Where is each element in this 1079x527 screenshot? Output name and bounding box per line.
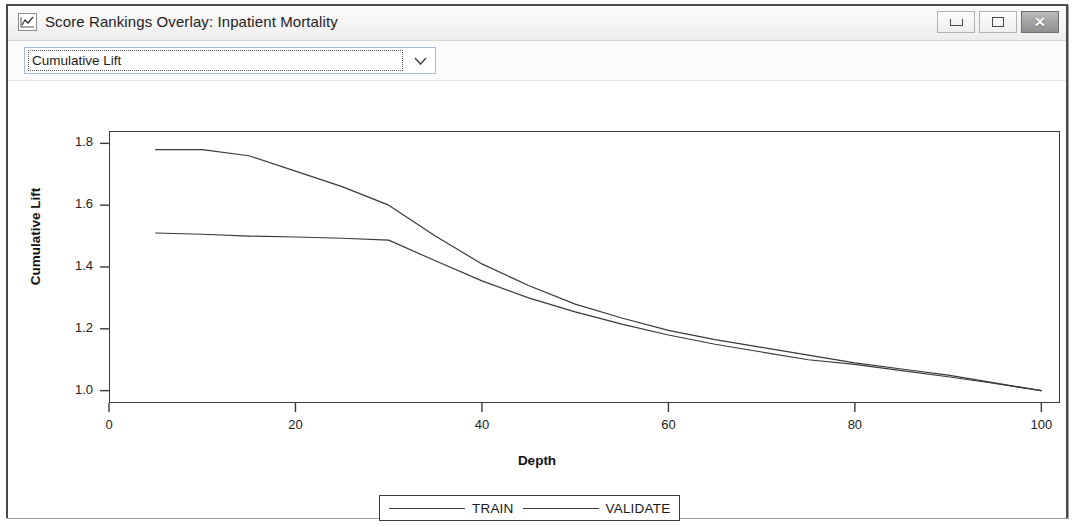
minimize-icon (950, 19, 963, 26)
close-icon: ✕ (1034, 15, 1046, 29)
legend-label-train: TRAIN (472, 501, 514, 516)
chart-panel: Cumulative Lift Depth 1.01.21.41.61.8 02… (8, 81, 1066, 518)
x-axis-label: Depth (8, 453, 1066, 468)
window-title: Score Rankings Overlay: Inpatient Mortal… (45, 13, 338, 30)
maximize-button[interactable] (979, 11, 1017, 33)
x-tick-label: 20 (271, 417, 319, 432)
chart-legend: TRAIN VALIDATE (379, 495, 680, 521)
maximize-icon (992, 17, 1004, 27)
close-button[interactable]: ✕ (1021, 11, 1059, 33)
title-bar: Score Rankings Overlay: Inpatient Mortal… (8, 6, 1066, 41)
y-axis-label: Cumulative Lift (28, 177, 43, 297)
plot-type-select[interactable]: Cumulative Lift (24, 47, 436, 74)
x-tick-label: 80 (831, 417, 879, 432)
plot-type-value-box: Cumulative Lift (28, 50, 403, 71)
toolbar: Cumulative Lift (8, 41, 1066, 81)
data-series (156, 150, 1042, 391)
line-chart-icon (18, 13, 37, 31)
x-tick-label: 40 (458, 417, 506, 432)
legend-item-train[interactable]: TRAIN (389, 501, 514, 516)
chevron-down-icon[interactable] (405, 56, 435, 66)
x-tick-label: 100 (1017, 417, 1065, 432)
plot-type-value: Cumulative Lift (32, 53, 121, 68)
y-tick-label: 1.2 (53, 320, 93, 335)
window-controls: ✕ (937, 11, 1059, 33)
y-tick-label: 1.4 (53, 258, 93, 273)
legend-swatch-train (389, 508, 465, 509)
chart-window: Score Rankings Overlay: Inpatient Mortal… (6, 4, 1068, 518)
minimize-button[interactable] (937, 11, 975, 33)
y-tick-label: 1.0 (53, 382, 93, 397)
legend-item-validate[interactable]: VALIDATE (523, 501, 671, 516)
x-tick-label: 0 (85, 417, 133, 432)
axis-ticks (100, 143, 1041, 412)
x-tick-label: 60 (644, 417, 692, 432)
y-tick-label: 1.8 (53, 134, 93, 149)
legend-swatch-validate (523, 508, 599, 509)
y-tick-label: 1.6 (53, 196, 93, 211)
legend-label-validate: VALIDATE (606, 501, 671, 516)
